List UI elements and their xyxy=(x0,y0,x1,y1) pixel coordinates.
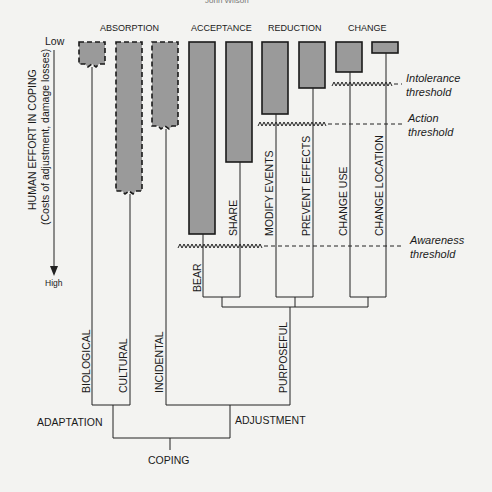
bar-bear xyxy=(189,42,215,234)
label-change-location: CHANGE LOCATION xyxy=(373,135,385,236)
label-change-use: CHANGE USE xyxy=(337,167,349,236)
category-reduction: REDUCTION xyxy=(268,23,322,33)
label-prevent-effects: PREVENT EFFECTS xyxy=(300,136,312,236)
awareness-threshold-label-1: Awareness xyxy=(409,234,465,246)
bar-biological xyxy=(79,42,105,67)
label-modify-events: MODIFY EVENTS xyxy=(263,150,275,236)
awareness-threshold-label-2: threshold xyxy=(410,248,456,260)
awareness-threshold-zigzag xyxy=(178,244,262,248)
bar-change-use xyxy=(336,42,362,72)
axis-subtitle: (Costs of adjustment, damage losses) xyxy=(39,49,51,225)
action-threshold-zigzag xyxy=(258,122,326,126)
intolerance-threshold-label-2: threshold xyxy=(406,86,452,98)
bar-share xyxy=(226,42,252,162)
label-adjustment: ADJUSTMENT xyxy=(235,414,306,426)
label-adaptation: ADAPTATION xyxy=(37,416,103,428)
label-bear: BEAR xyxy=(191,263,203,292)
page-header-partial: John Wilson xyxy=(205,0,249,5)
action-threshold-label-1: Action xyxy=(407,112,439,124)
axis-high-label: High xyxy=(45,278,63,288)
bar-change-location xyxy=(372,42,398,53)
label-purposeful: PURPOSEFUL xyxy=(277,322,289,393)
action-threshold-label-2: threshold xyxy=(408,126,454,138)
bar-modify-events xyxy=(262,42,288,114)
category-change: CHANGE xyxy=(348,23,387,33)
intolerance-threshold-zigzag xyxy=(332,82,392,86)
bar-incidental xyxy=(152,42,178,129)
label-cultural: CULTURAL xyxy=(117,338,129,393)
axis-low-label: Low xyxy=(45,35,65,47)
bar-cultural xyxy=(116,42,142,194)
bar-prevent-effects xyxy=(299,42,325,88)
label-share: SHARE xyxy=(227,200,239,236)
coping-diagram: John Wilson ABSORPTION ACCEPTANCE REDUCT… xyxy=(0,0,492,492)
axis-arrow-icon xyxy=(50,266,58,276)
label-biological: BIOLOGICAL xyxy=(80,329,92,393)
category-absorption: ABSORPTION xyxy=(100,23,159,33)
category-acceptance: ACCEPTANCE xyxy=(191,23,252,33)
axis-title: HUMAN EFFORT IN COPING xyxy=(26,69,38,210)
intolerance-threshold-label-1: Intolerance xyxy=(406,72,460,84)
label-incidental: INCIDENTAL xyxy=(153,331,165,393)
label-coping: COPING xyxy=(148,454,189,466)
